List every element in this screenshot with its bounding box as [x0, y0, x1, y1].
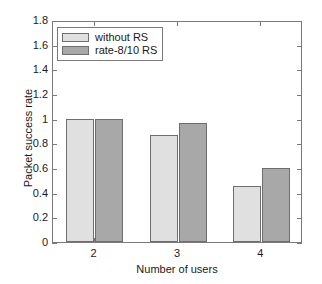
bar	[262, 168, 290, 242]
x-axis-tick	[260, 238, 261, 243]
bar	[66, 119, 94, 242]
x-axis-tick-top	[260, 21, 261, 26]
legend-item: rate-8/10 RS	[62, 44, 157, 57]
y-axis-tick-label: 1.8	[4, 15, 48, 26]
y-axis-tick-right	[297, 218, 302, 219]
y-axis-tick	[52, 194, 57, 195]
legend-label: rate-8/10 RS	[95, 45, 157, 56]
x-axis-tick-label: 4	[240, 247, 280, 259]
y-axis-tick-right	[297, 95, 302, 96]
x-axis-tick	[94, 238, 95, 243]
x-axis-tick	[177, 238, 178, 243]
y-axis-tick	[52, 21, 57, 22]
x-axis-tick-top	[177, 21, 178, 26]
y-axis-tick-right	[297, 194, 302, 195]
x-axis-title: Number of users	[52, 263, 302, 275]
bar	[150, 135, 178, 242]
x-axis-tick-label: 2	[74, 247, 114, 259]
y-axis-tick-right	[297, 21, 302, 22]
y-axis-tick	[52, 70, 57, 71]
legend-swatch-without-rs	[62, 33, 89, 42]
y-axis-tick	[52, 169, 57, 170]
legend-item: without RS	[62, 31, 157, 44]
legend-label: without RS	[95, 32, 148, 43]
bar	[179, 123, 207, 242]
y-axis-tick	[52, 218, 57, 219]
bar	[95, 119, 123, 242]
y-axis-tick-right	[297, 120, 302, 121]
y-axis-tick	[52, 120, 57, 121]
legend-swatch-rate-8-10-rs	[62, 46, 89, 55]
y-axis-tick-right	[297, 70, 302, 71]
x-axis-tick-top	[94, 21, 95, 26]
y-axis-tick-right	[297, 169, 302, 170]
y-axis-tick	[52, 144, 57, 145]
y-axis-tick-label: 1.6	[4, 40, 48, 51]
y-axis-tick-right	[297, 243, 302, 244]
bar	[233, 186, 261, 242]
y-axis-tick	[52, 243, 57, 244]
y-axis-tick-right	[297, 144, 302, 145]
chart-legend: without RS rate-8/10 RS	[57, 27, 163, 61]
y-axis-title: Packet success rate	[22, 58, 34, 218]
y-axis-tick-right	[297, 46, 302, 47]
x-axis-tick-label: 3	[157, 247, 197, 259]
y-axis-tick	[52, 95, 57, 96]
chart-figure: 00.20.40.60.811.21.41.61.8 234 Packet su…	[0, 0, 322, 284]
y-axis-tick-label: 0	[4, 237, 48, 248]
